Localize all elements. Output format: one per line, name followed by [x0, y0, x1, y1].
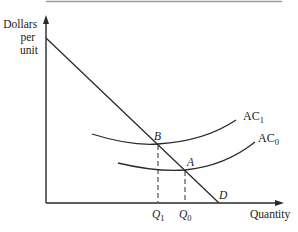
point-a-label: A	[186, 156, 195, 168]
y-axis	[43, 15, 49, 203]
x-axis-arrow-icon	[275, 200, 284, 206]
q0-label: Q0	[179, 208, 192, 223]
y-axis-label: Dollars per unit	[3, 18, 40, 56]
ac1-label: AC1	[243, 109, 264, 125]
ac-demand-diagram: Dollars per unit Quantity B A D AC1 AC0 …	[0, 0, 298, 232]
ac1-curve	[92, 120, 236, 144]
x-axis-label: Quantity	[250, 208, 290, 221]
point-b-label: B	[154, 130, 161, 142]
y-axis-arrow-icon	[43, 15, 49, 24]
ac0-label: AC0	[258, 131, 279, 147]
demand-label: D	[218, 189, 228, 201]
x-axis	[46, 200, 284, 206]
demand-curve	[46, 38, 219, 203]
q1-label: Q1	[152, 208, 165, 223]
diagram-canvas: Dollars per unit Quantity B A D AC1 AC0 …	[0, 0, 298, 232]
